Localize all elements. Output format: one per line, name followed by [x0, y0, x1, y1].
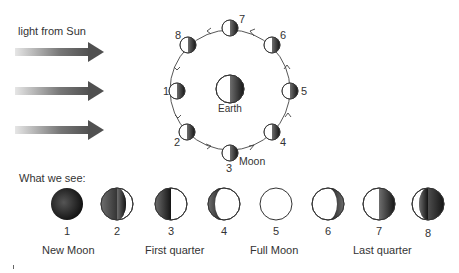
orbit-number-1: 1	[163, 85, 169, 97]
sunlight-arrows	[15, 42, 104, 140]
orbit-number-7: 7	[239, 13, 245, 25]
phase-1-new-moon-icon	[51, 188, 83, 220]
sunlight-arrow-icon	[15, 42, 104, 62]
phase-number-8: 8	[425, 227, 431, 239]
phase-number-4: 4	[221, 225, 227, 237]
phase-name-last-quarter: Last quarter	[353, 244, 412, 256]
phase-name-full-moon: Full Moon	[250, 244, 298, 256]
phase-2-waxing-crescent-icon	[101, 188, 133, 220]
orbit-moon-2-icon	[179, 124, 195, 140]
phase-5-full-moon-icon	[260, 188, 292, 220]
phase-3-first-quarter-icon	[155, 188, 187, 220]
what-we-see-label: What we see:	[19, 172, 86, 184]
sunlight-arrow-icon	[15, 81, 104, 101]
observed-phases	[51, 188, 444, 220]
orbit-moon-5-icon	[282, 83, 298, 99]
sun-label: light from Sun	[18, 25, 86, 37]
phase-number-6: 6	[325, 225, 331, 237]
sunlight-arrow-icon	[15, 120, 104, 140]
phase-number-3: 3	[168, 225, 174, 237]
moon-label: Moon	[239, 155, 265, 167]
orbit-moon-3-icon	[222, 145, 238, 161]
phase-name-new-moon: New Moon	[42, 244, 95, 256]
earth-icon	[216, 75, 244, 103]
phase-number-2: 2	[114, 225, 120, 237]
phase-name-first-quarter: First quarter	[145, 244, 204, 256]
orbit-moon-6-icon	[264, 37, 280, 53]
orbit-number-8: 8	[175, 29, 181, 41]
orbit-moon-8-icon	[180, 37, 196, 53]
phase-4-waxing-gibbous-icon	[208, 188, 240, 220]
phase-6-waning-gibbous-icon	[312, 188, 344, 220]
orbit-number-6: 6	[280, 29, 286, 41]
orbit-number-2: 2	[174, 136, 180, 148]
orbit-moon-7-icon	[222, 20, 238, 36]
orbit-moon-1-icon	[169, 83, 185, 99]
earth-label: Earth	[218, 103, 242, 114]
stray-tick-mark	[13, 265, 14, 269]
orbit-number-4: 4	[280, 136, 286, 148]
phase-number-5: 5	[273, 225, 279, 237]
phase-8-waning-crescent-icon	[412, 188, 444, 220]
phase-number-1: 1	[64, 225, 70, 237]
phase-7-last-quarter-icon	[363, 188, 395, 220]
phase-number-7: 7	[376, 225, 382, 237]
orbit-number-3: 3	[226, 162, 232, 174]
orbit-number-5: 5	[301, 85, 307, 97]
orbit-moon-4-icon	[264, 124, 280, 140]
